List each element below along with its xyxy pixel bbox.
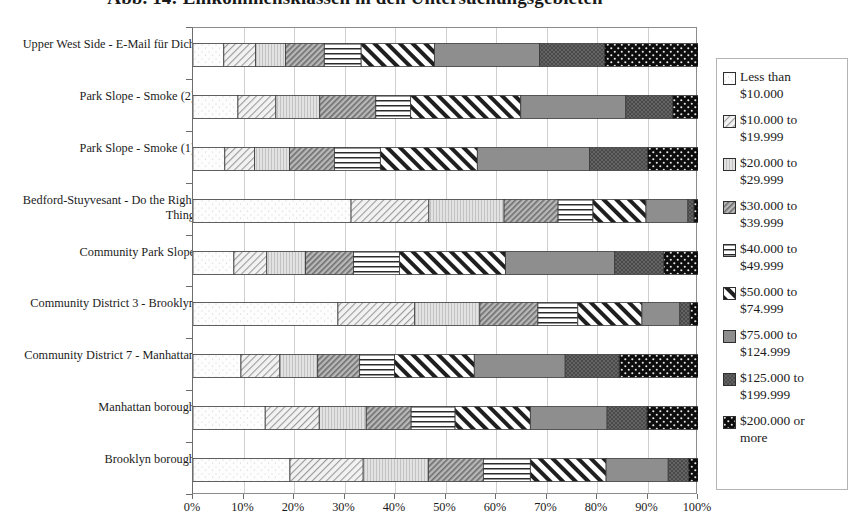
- stacked-bar[interactable]: [193, 43, 696, 67]
- bar-segment[interactable]: [256, 44, 286, 67]
- bar-segment[interactable]: [193, 303, 338, 326]
- bar-segment[interactable]: [477, 147, 589, 170]
- bar-segment[interactable]: [320, 95, 376, 118]
- bar-segment[interactable]: [615, 251, 664, 274]
- bar-segment[interactable]: [354, 251, 400, 274]
- stacked-bar[interactable]: [193, 251, 696, 275]
- legend-item[interactable]: $50.000 to $74.999: [723, 284, 843, 317]
- bar-segment[interactable]: [280, 355, 318, 378]
- bar-segment[interactable]: [530, 407, 607, 430]
- bar-segment[interactable]: [455, 407, 530, 430]
- bar-segment[interactable]: [351, 199, 429, 222]
- bar-segment[interactable]: [607, 407, 647, 430]
- stacked-bar[interactable]: [193, 354, 696, 378]
- bar-segment[interactable]: [360, 355, 395, 378]
- bar-segment[interactable]: [593, 199, 646, 222]
- bar-segment[interactable]: [411, 95, 521, 118]
- bar-segment[interactable]: [289, 147, 334, 170]
- bar-segment[interactable]: [648, 147, 699, 170]
- bar-segment[interactable]: [363, 459, 428, 482]
- bar-segment[interactable]: [589, 147, 647, 170]
- bar-segment[interactable]: [504, 199, 558, 222]
- stacked-bar[interactable]: [193, 302, 696, 326]
- bar-segment[interactable]: [619, 355, 698, 378]
- bar-segment[interactable]: [241, 355, 280, 378]
- stacked-bar[interactable]: [193, 95, 696, 119]
- bar-segment[interactable]: [411, 407, 455, 430]
- bar-segment[interactable]: [366, 407, 411, 430]
- legend-item[interactable]: $75.000 to $124.999: [723, 327, 843, 360]
- bar-segment[interactable]: [538, 303, 578, 326]
- bar-segment[interactable]: [267, 251, 306, 274]
- bar-segment[interactable]: [193, 95, 238, 118]
- bar-segment[interactable]: [285, 44, 324, 67]
- bar-segment[interactable]: [255, 147, 290, 170]
- bar-segment[interactable]: [276, 95, 320, 118]
- bar-segment[interactable]: [474, 355, 565, 378]
- stacked-bar[interactable]: [193, 406, 696, 430]
- bar-segment[interactable]: [688, 459, 698, 482]
- bar-segment[interactable]: [428, 459, 483, 482]
- bar-segment[interactable]: [319, 407, 366, 430]
- bar-segment[interactable]: [530, 459, 606, 482]
- bar-segment[interactable]: [238, 95, 276, 118]
- bar-segment[interactable]: [646, 199, 688, 222]
- legend-item[interactable]: $30.000 to $39.999: [723, 198, 843, 231]
- legend-item[interactable]: $10.000 to $19.999: [723, 112, 843, 145]
- bar-segment[interactable]: [680, 303, 690, 326]
- bar-segment[interactable]: [539, 44, 604, 67]
- bar-segment[interactable]: [642, 303, 680, 326]
- bar-segment[interactable]: [290, 459, 363, 482]
- bar-segment[interactable]: [193, 355, 241, 378]
- bar-segment[interactable]: [673, 95, 698, 118]
- bar-segment[interactable]: [225, 147, 255, 170]
- bar-segment[interactable]: [480, 303, 538, 326]
- bar-segment[interactable]: [394, 355, 474, 378]
- bar-segment[interactable]: [506, 251, 615, 274]
- bar-segment[interactable]: [558, 199, 593, 222]
- bar-segment[interactable]: [234, 251, 267, 274]
- bar-segment[interactable]: [193, 147, 225, 170]
- bar-segment[interactable]: [318, 355, 360, 378]
- bar-segment[interactable]: [193, 199, 351, 222]
- bar-segment[interactable]: [193, 44, 224, 67]
- bar-segment[interactable]: [334, 147, 380, 170]
- bar-segment[interactable]: [605, 44, 698, 67]
- bar-segment[interactable]: [324, 44, 361, 67]
- bar-segment[interactable]: [606, 459, 668, 482]
- bar-segment[interactable]: [626, 95, 673, 118]
- bar-segment[interactable]: [224, 44, 256, 67]
- bar-segment[interactable]: [415, 303, 480, 326]
- legend-swatch-icon: [723, 330, 736, 343]
- bar-segment[interactable]: [688, 199, 694, 222]
- bar-segment[interactable]: [380, 147, 477, 170]
- bar-segment[interactable]: [664, 251, 698, 274]
- bar-segment[interactable]: [338, 303, 415, 326]
- legend-item[interactable]: $40.000 to $49.999: [723, 241, 843, 274]
- stacked-bar[interactable]: [193, 199, 696, 223]
- bar-segment[interactable]: [647, 407, 698, 430]
- bar-segment[interactable]: [400, 251, 506, 274]
- legend-item[interactable]: $20.000 to $29.999: [723, 155, 843, 188]
- bar-segment[interactable]: [193, 459, 290, 482]
- bar-segment[interactable]: [361, 44, 434, 67]
- bar-segment[interactable]: [521, 95, 626, 118]
- bar-segment[interactable]: [429, 199, 504, 222]
- legend-item[interactable]: $200.000 or more: [723, 413, 843, 446]
- bar-segment[interactable]: [483, 459, 530, 482]
- bar-segment[interactable]: [306, 251, 354, 274]
- stacked-bar[interactable]: [193, 147, 696, 171]
- bar-segment[interactable]: [193, 251, 234, 274]
- bar-segment[interactable]: [694, 199, 698, 222]
- bar-segment[interactable]: [690, 303, 698, 326]
- bar-segment[interactable]: [265, 407, 319, 430]
- bar-segment[interactable]: [434, 44, 539, 67]
- bar-segment[interactable]: [193, 407, 265, 430]
- bar-segment[interactable]: [668, 459, 688, 482]
- bar-segment[interactable]: [376, 95, 411, 118]
- bar-segment[interactable]: [578, 303, 642, 326]
- legend-item[interactable]: $125.000 to $199.999: [723, 370, 843, 403]
- stacked-bar[interactable]: [193, 458, 696, 482]
- legend-item[interactable]: Less than $10.000: [723, 69, 843, 102]
- bar-segment[interactable]: [565, 355, 619, 378]
